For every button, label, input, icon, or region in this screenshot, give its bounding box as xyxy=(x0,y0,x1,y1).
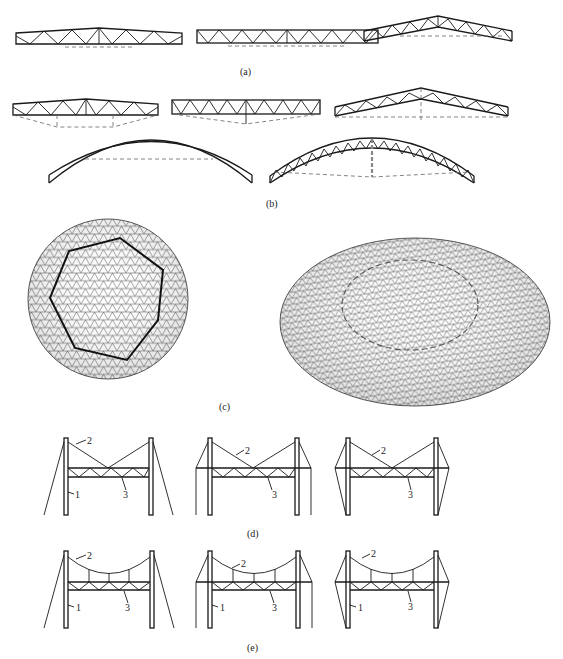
parallel-chord-truss-with-tie xyxy=(172,100,320,124)
label-truss: 3 xyxy=(408,601,413,612)
panel-c xyxy=(28,219,550,406)
suspended-vertical-backstay: 2 1 3 xyxy=(196,551,312,628)
solid-arch xyxy=(49,140,252,183)
structural-forms-figure: (a) xyxy=(0,0,563,659)
label-truss: 3 xyxy=(123,489,128,500)
pitched-truss-with-tie xyxy=(335,88,508,122)
label-cable: 2 xyxy=(241,558,246,569)
label-truss: 3 xyxy=(408,489,413,500)
label-cable: 2 xyxy=(245,445,250,456)
caption-d: (d) xyxy=(247,528,259,540)
parallel-chord-truss xyxy=(197,30,378,46)
label-cable: 2 xyxy=(87,435,92,446)
label-tower: 1 xyxy=(75,489,80,500)
suspended-inclined-backstay: 2 1 3 xyxy=(335,548,449,628)
label-tower: 1 xyxy=(358,602,363,613)
panel-a xyxy=(16,16,512,47)
trussed-arch xyxy=(270,138,474,183)
caption-b: (b) xyxy=(266,198,278,210)
label-truss: 3 xyxy=(125,602,130,613)
label-cable: 2 xyxy=(381,445,386,456)
trapezoidal-truss xyxy=(16,28,182,47)
dome-perspective-view xyxy=(280,238,550,406)
caption-a: (a) xyxy=(240,66,251,78)
cable-stayed-inclined-backstay: 2 3 xyxy=(335,438,449,515)
label-tower: 1 xyxy=(220,602,225,613)
label-cable: 2 xyxy=(371,548,376,559)
label-truss: 3 xyxy=(272,489,277,500)
trapezoidal-truss-with-tie xyxy=(13,99,158,127)
cable-stayed-outward-guy: 2 1 3 xyxy=(44,435,173,515)
caption-c: (c) xyxy=(219,401,230,413)
panel-b xyxy=(13,88,508,183)
label-tower: 1 xyxy=(76,602,81,613)
caption-e: (e) xyxy=(247,642,258,654)
cable-stayed-vertical-backstay: 2 3 xyxy=(196,438,311,515)
pitched-truss xyxy=(364,16,512,41)
panel-e: 2 1 3 2 1 3 xyxy=(44,548,449,628)
panel-d: 2 1 3 2 3 xyxy=(44,435,449,515)
dome-plan-view xyxy=(28,219,188,379)
label-cable: 2 xyxy=(87,550,92,561)
label-truss: 3 xyxy=(272,602,277,613)
suspended-outward-guy: 2 1 3 xyxy=(44,550,174,628)
